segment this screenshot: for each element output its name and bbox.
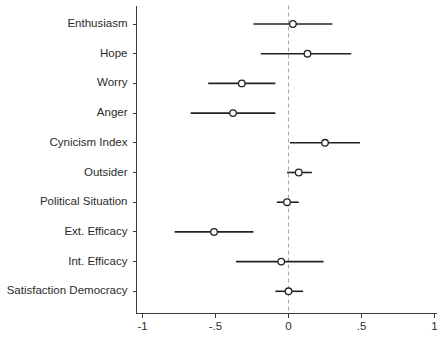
x-tick-label: 0 (285, 320, 291, 332)
estimate-row (191, 110, 276, 117)
point-estimate-marker (230, 110, 237, 117)
estimate-row (275, 288, 303, 295)
category-label: Anger (97, 106, 128, 118)
point-estimate-marker (284, 199, 291, 206)
category-label: Worry (97, 76, 128, 88)
point-estimate-marker (295, 169, 302, 176)
point-estimate-marker (278, 258, 285, 265)
point-estimate-marker (238, 80, 245, 87)
point-estimate-marker (322, 140, 329, 147)
category-label: Outsider (84, 166, 128, 178)
estimate-row (277, 199, 299, 206)
category-label: Political Situation (40, 195, 128, 207)
x-tick-label: -1 (137, 320, 147, 332)
category-label: Satisfaction Democracy (7, 284, 128, 296)
axes-group (137, 6, 438, 314)
coefficient-plot: EnthusiasmHopeWorryAngerCynicism IndexOu… (0, 0, 445, 338)
category-label: Enthusiasm (67, 17, 127, 29)
estimates-series-group (175, 21, 360, 295)
plot-area: EnthusiasmHopeWorryAngerCynicism IndexOu… (0, 0, 445, 338)
point-estimate-marker (304, 50, 311, 57)
x-tick-label: 1 (431, 320, 437, 332)
estimate-row (287, 169, 312, 176)
category-label: Ext. Efficacy (64, 225, 127, 237)
point-estimate-marker (290, 21, 297, 28)
estimate-row (208, 80, 275, 87)
category-label: Cynicism Index (50, 136, 128, 148)
x-tick-labels-group: -1-.50.51 (137, 320, 437, 332)
x-tick-label: .5 (357, 320, 367, 332)
estimate-row (236, 258, 324, 265)
category-label: Int. Efficacy (68, 255, 127, 267)
estimate-row (261, 50, 352, 57)
category-label: Hope (100, 47, 128, 59)
x-tick-label: -.5 (209, 320, 222, 332)
tick-marks-group (133, 24, 435, 318)
estimate-row (175, 229, 254, 236)
point-estimate-marker (285, 288, 292, 295)
estimate-row (253, 21, 332, 28)
estimate-row (290, 140, 360, 147)
point-estimate-marker (211, 229, 218, 236)
category-labels-group: EnthusiasmHopeWorryAngerCynicism IndexOu… (7, 17, 128, 296)
